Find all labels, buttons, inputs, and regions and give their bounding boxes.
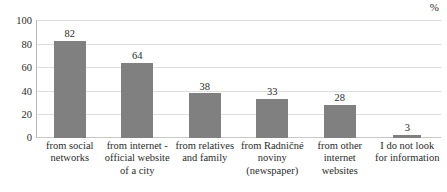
bar-value-label: 33 xyxy=(267,86,278,97)
category-label-relatives-family: from relatives and family xyxy=(171,140,239,190)
bar-radnicne-noviny[interactable] xyxy=(256,99,288,138)
bar-value-label: 82 xyxy=(65,28,76,39)
bar-slot-radnicne-noviny: 33 xyxy=(239,20,307,138)
category-label-other-websites: from other internet websites xyxy=(306,140,374,190)
bar-other-websites[interactable] xyxy=(324,105,356,138)
bar-slot-do-not-look: 3 xyxy=(374,20,442,138)
bar-do-not-look[interactable] xyxy=(393,135,421,139)
y-tick-label-20: 20 xyxy=(22,109,33,120)
y-tick-label-0: 0 xyxy=(27,132,32,143)
bar-slot-relatives-family: 38 xyxy=(171,20,239,138)
bar-slot-other-websites: 28 xyxy=(306,20,374,138)
bar-slot-city-website: 64 xyxy=(104,20,172,138)
percent-unit-annotation: % xyxy=(430,1,439,13)
x-axis-category-labels: from social networks from internet - off… xyxy=(36,140,441,190)
bar-chart: % 100 80 60 40 20 0 82 64 38 xyxy=(0,0,447,192)
bar-value-label: 28 xyxy=(335,92,346,103)
bar-relatives-family[interactable] xyxy=(189,93,221,138)
y-tick-label-80: 80 xyxy=(22,38,33,49)
y-axis-tick-labels: 100 80 60 40 20 0 xyxy=(0,20,32,138)
bar-city-website[interactable] xyxy=(121,63,153,139)
bar-value-label: 38 xyxy=(200,81,211,92)
bar-slot-social-networks: 82 xyxy=(36,20,104,138)
bar-value-label: 3 xyxy=(405,122,410,133)
bar-value-label: 64 xyxy=(132,50,143,61)
y-tick-label-60: 60 xyxy=(22,62,33,73)
category-label-radnicne-noviny: from Radničné noviny (newspaper) xyxy=(239,140,307,190)
y-tick-label-40: 40 xyxy=(22,85,33,96)
category-label-social-networks: from social networks xyxy=(36,140,104,190)
y-tick-label-100: 100 xyxy=(16,15,32,26)
bars-layer: 82 64 38 33 28 3 xyxy=(36,20,441,138)
bar-social-networks[interactable] xyxy=(54,41,86,138)
category-label-do-not-look: I do not look for information xyxy=(374,140,442,190)
category-label-city-website: from internet - official website of a ci… xyxy=(104,140,172,190)
